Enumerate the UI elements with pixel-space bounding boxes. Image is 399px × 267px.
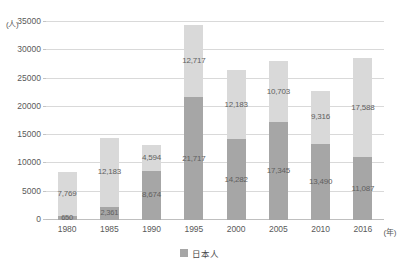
bar-segment-upper[interactable]: 9,316 [311,91,330,144]
legend-item-label: 日本人 [192,247,219,259]
bar-segment-value-label: 8,674 [142,190,161,199]
stacked-bar-chart: (人) (年) 05000100001500020000250003000035… [0,0,399,267]
bar-segment-upper[interactable]: 7,769 [58,172,77,216]
bar-segment-lower[interactable]: 21,717 [184,97,203,220]
stacked-bar[interactable]: 10,70317,345 [269,61,288,220]
y-axis-tick-label: 20000 [17,101,41,111]
bar-segment-value-label: 12,717 [182,56,205,65]
bar-segment-value-label: 17,345 [267,166,290,175]
stacked-bar[interactable]: 17,58811,087 [353,58,372,220]
x-axis-tick-label: 2016 [342,224,383,234]
bar-segment-lower[interactable]: 11,087 [353,157,372,220]
bar-segment-upper[interactable]: 10,703 [269,61,288,122]
stacked-bar[interactable]: 7,769650 [58,172,77,220]
y-axis-tick-label: 30000 [17,44,41,54]
bar-column: 4,5948,674 [131,22,172,220]
bar-column: 12,1832,361 [89,22,130,220]
y-axis-tick-label: 25000 [17,73,41,83]
stacked-bar[interactable]: 12,18314,282 [227,70,246,220]
bar-segment-value-label: 13,490 [309,177,332,186]
bar-segment-value-label: 11,087 [352,184,375,193]
bar-column: 10,70317,345 [258,22,299,220]
bar-segment-value-label: 12,183 [224,100,247,109]
bar-segment-value-label: 17,588 [351,103,374,112]
x-axis-tick-label: 1980 [47,224,88,234]
bar-segment-upper[interactable]: 12,183 [227,70,246,139]
x-axis-tick-label: 2000 [216,224,257,234]
bar-segment-value-label: 21,717 [182,154,205,163]
x-axis-labels: 19801985199019952000200520102016 [46,224,384,234]
bar-segment-lower[interactable]: 650 [58,216,77,220]
bar-column: 12,18314,282 [216,22,257,220]
bar-segment-lower[interactable]: 17,345 [269,122,288,220]
bar-segment-upper[interactable]: 17,588 [353,58,372,157]
bar-segment-value-label: 14,282 [224,175,247,184]
bar-segment-value-label: 2,361 [100,208,118,217]
bar-segment-lower[interactable]: 2,361 [100,207,119,220]
y-axis-tick-label: 0 [36,214,41,224]
bar-column: 7,769650 [47,22,88,220]
bar-column: 17,58811,087 [342,22,383,220]
legend-swatch-icon [180,249,188,257]
chart-legend: 日本人 [0,247,399,259]
bar-segment-value-label: 10,703 [267,87,290,96]
stacked-bar[interactable]: 9,31613,490 [311,91,330,220]
bar-segment-value-label: 650 [61,213,73,222]
x-axis-tick-label: 1985 [89,224,130,234]
bar-segment-value-label: 12,183 [98,167,121,176]
x-axis-tick-label: 2005 [258,224,299,234]
stacked-bar[interactable]: 12,1832,361 [100,138,119,220]
x-axis-tick-label: 1990 [131,224,172,234]
bar-segment-upper[interactable]: 12,717 [184,25,203,97]
bar-column: 12,71721,717 [173,22,214,220]
bar-segment-lower[interactable]: 14,282 [227,139,246,220]
y-axis-tick-label: 35000 [17,16,41,26]
y-axis-tick-label: 15000 [17,129,41,139]
stacked-bar[interactable]: 4,5948,674 [142,145,161,220]
bar-column: 9,31613,490 [300,22,341,220]
x-axis-tick-label: 2010 [300,224,341,234]
bar-segment-upper[interactable]: 12,183 [100,138,119,207]
plot-area: 05000100001500020000250003000035000 7,76… [46,22,384,220]
bar-segment-lower[interactable]: 13,490 [311,144,330,220]
y-axis-tick-label: 10000 [17,157,41,167]
bar-segment-value-label: 7,769 [58,189,77,198]
x-axis-tick-label: 1995 [173,224,214,234]
x-axis-unit-label: (年) [384,226,396,237]
bar-segment-lower[interactable]: 8,674 [142,171,161,220]
bar-segment-value-label: 9,316 [311,112,330,121]
bar-group: 7,76965012,1832,3614,5948,67412,71721,71… [46,22,384,220]
y-axis-tick-label: 5000 [22,186,41,196]
bar-segment-upper[interactable]: 4,594 [142,145,161,171]
bar-segment-value-label: 4,594 [142,153,161,162]
stacked-bar[interactable]: 12,71721,717 [184,25,203,220]
